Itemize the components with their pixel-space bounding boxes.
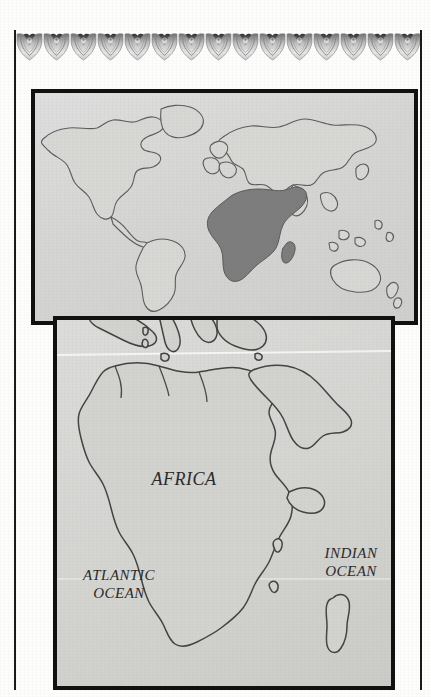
world-locator-map xyxy=(31,89,418,325)
page-rule-right xyxy=(420,30,422,690)
label-atlantic-line1: ATLANTIC xyxy=(82,567,155,583)
ornamental-frieze xyxy=(16,30,420,64)
africa-detail-map: AFRICA ATLANTIC OCEAN INDIAN OCEAN xyxy=(53,316,395,690)
highlighted-africa-region xyxy=(207,187,306,281)
book-page: AFRICA ATLANTIC OCEAN INDIAN OCEAN xyxy=(0,0,431,697)
page-rule-left xyxy=(14,30,16,690)
label-atlantic-line2: OCEAN xyxy=(93,585,145,601)
label-africa: AFRICA xyxy=(151,469,217,489)
label-indian-line1: INDIAN xyxy=(324,545,378,561)
label-indian-line2: OCEAN xyxy=(325,563,377,579)
frieze-repeat-group xyxy=(17,34,420,60)
